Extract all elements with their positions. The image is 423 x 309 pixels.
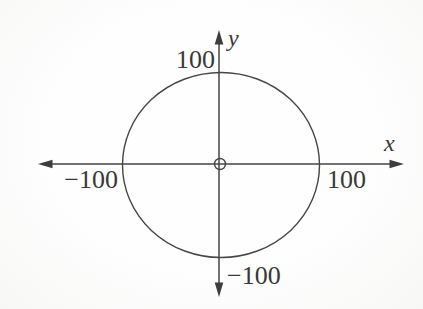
y-axis-label: y: [226, 25, 239, 51]
tick-label-y-positive: 100: [176, 45, 215, 74]
diagram-svg: y x 100 100 −100 −100: [0, 0, 423, 309]
x-axis-label: x: [383, 130, 395, 156]
tick-label-x-positive: 100: [327, 165, 366, 194]
x-axis-arrow-right-icon: [390, 160, 405, 169]
y-axis-arrow-up-icon: [215, 30, 224, 45]
circle-coordinate-plane-figure: y x 100 100 −100 −100: [0, 0, 423, 309]
x-axis-arrow-left-icon: [38, 160, 53, 169]
y-axis-arrow-down-icon: [215, 283, 224, 298]
circle-curve: [123, 73, 320, 258]
tick-label-x-negative: −100: [64, 165, 118, 194]
tick-label-y-negative: −100: [227, 261, 281, 290]
